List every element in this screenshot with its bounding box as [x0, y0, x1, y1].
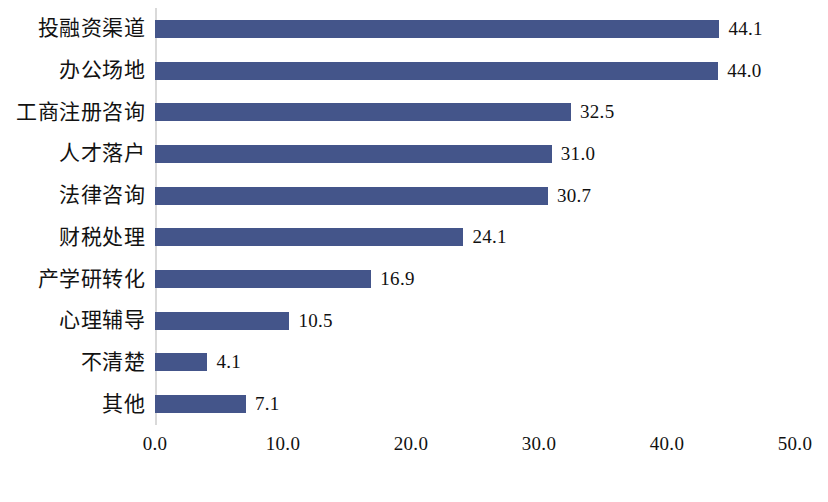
category-label: 财税处理: [59, 227, 145, 248]
bar: [155, 228, 463, 246]
category-label: 人才落户: [59, 143, 145, 164]
x-axis: 0.010.020.030.040.050.0: [155, 433, 795, 463]
bar: [155, 187, 548, 205]
bar-row: 产学研转化16.9: [155, 258, 795, 300]
x-axis-tick-label: 10.0: [266, 433, 300, 455]
bar-row: 工商注册咨询32.5: [155, 91, 795, 133]
category-label: 办公场地: [59, 60, 145, 81]
bar-value-label: 30.7: [557, 185, 591, 207]
bar: [155, 353, 207, 371]
bar: [155, 270, 371, 288]
x-axis-tick-label: 0.0: [143, 433, 168, 455]
bar-value-label: 4.1: [216, 351, 241, 373]
bar-row: 法律咨询30.7: [155, 175, 795, 217]
bar-row: 财税处理24.1: [155, 217, 795, 259]
bar-row: 其他7.1: [155, 383, 795, 425]
bar: [155, 62, 718, 80]
bar-row: 办公场地44.0: [155, 50, 795, 92]
category-label: 其他: [102, 394, 145, 415]
x-axis-tick-label: 20.0: [394, 433, 428, 455]
bar-value-label: 44.1: [728, 18, 762, 40]
bar-row: 不清楚4.1: [155, 342, 795, 384]
bar: [155, 20, 719, 38]
bar: [155, 395, 246, 413]
x-axis-tick-label: 30.0: [522, 433, 556, 455]
bar-value-label: 16.9: [380, 268, 414, 290]
category-label: 产学研转化: [38, 269, 146, 290]
x-axis-tick-label: 50.0: [778, 433, 812, 455]
bar-value-label: 44.0: [727, 60, 761, 82]
bar-value-label: 10.5: [298, 310, 332, 332]
x-axis-tick-label: 40.0: [650, 433, 684, 455]
bar: [155, 312, 289, 330]
bar: [155, 145, 552, 163]
category-label: 投融资渠道: [38, 18, 146, 39]
bar-value-label: 31.0: [561, 143, 595, 165]
category-label: 心理辅导: [59, 310, 145, 331]
bar-value-label: 24.1: [472, 226, 506, 248]
bar-chart: 投融资渠道44.1办公场地44.0工商注册咨询32.5人才落户31.0法律咨询3…: [0, 0, 828, 502]
category-label: 工商注册咨询: [16, 102, 145, 123]
bar-value-label: 7.1: [255, 393, 280, 415]
bar-value-label: 32.5: [580, 101, 614, 123]
bar-row: 投融资渠道44.1: [155, 8, 795, 50]
bar-row: 心理辅导10.5: [155, 300, 795, 342]
bar-row: 人才落户31.0: [155, 133, 795, 175]
bar: [155, 103, 571, 121]
category-label: 不清楚: [81, 352, 146, 373]
category-label: 法律咨询: [59, 185, 145, 206]
